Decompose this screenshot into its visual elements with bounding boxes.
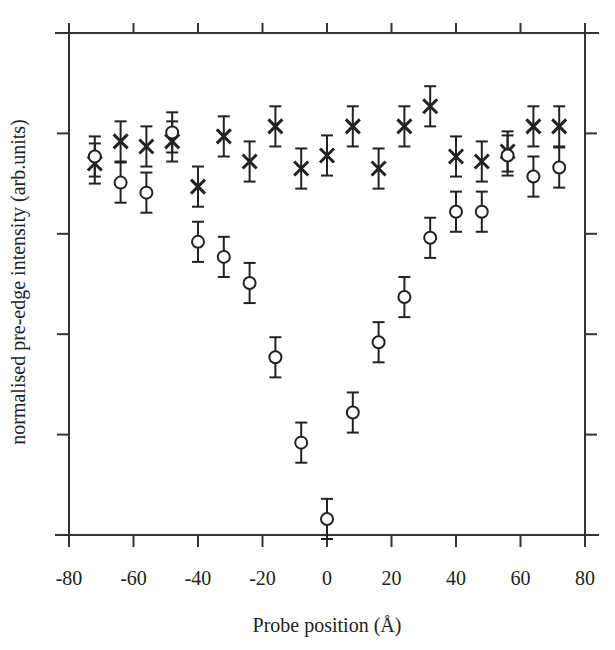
data-point <box>372 148 386 188</box>
x-tick-label: -80 <box>56 567 83 589</box>
data-point <box>114 121 128 161</box>
x-tick-label: 80 <box>575 567 595 589</box>
circle-marker <box>140 187 152 199</box>
data-point <box>373 322 385 362</box>
data-point <box>191 167 205 207</box>
circle-marker <box>476 206 488 218</box>
circle-marker <box>321 513 333 525</box>
data-point <box>294 148 308 188</box>
circle-marker <box>502 149 514 161</box>
data-point <box>476 192 488 232</box>
circle-marker <box>295 437 307 449</box>
data-point <box>321 499 333 539</box>
data-point <box>475 141 489 181</box>
circle-marker <box>553 162 565 174</box>
circle-marker <box>450 206 462 218</box>
data-point <box>139 126 153 166</box>
data-point <box>192 222 204 262</box>
data-point <box>449 136 463 176</box>
data-point <box>295 423 307 463</box>
series-cross <box>88 86 566 206</box>
data-series <box>88 86 566 539</box>
circle-marker <box>244 277 256 289</box>
x-tick-label: -20 <box>249 567 276 589</box>
data-point <box>553 147 565 187</box>
y-axis-ticks <box>57 133 597 434</box>
data-point <box>346 106 360 146</box>
x-tick-label: -60 <box>120 567 147 589</box>
x-tick-label: -40 <box>185 567 212 589</box>
circle-marker <box>373 336 385 348</box>
x-axis-title: Probe position (Å) <box>253 614 402 637</box>
data-point <box>398 277 410 317</box>
circle-marker <box>218 251 230 263</box>
x-tick-label: 40 <box>446 567 466 589</box>
data-point <box>268 106 282 146</box>
data-point <box>217 116 231 156</box>
data-point <box>526 106 540 146</box>
data-point <box>347 392 359 432</box>
circle-marker <box>166 126 178 138</box>
data-point <box>502 135 514 175</box>
circle-marker <box>527 171 539 183</box>
circle-marker <box>398 291 410 303</box>
plot-frame <box>55 23 599 547</box>
data-point <box>423 86 437 126</box>
data-point <box>243 141 257 181</box>
chart: -80-60-40-20020406080 Probe position (Å)… <box>0 0 615 650</box>
circle-marker <box>347 407 359 419</box>
x-tick-label: 20 <box>382 567 402 589</box>
data-point <box>115 163 127 203</box>
data-point <box>89 136 101 176</box>
circle-marker <box>115 177 127 189</box>
x-axis-ticks: -80-60-40-20020406080 <box>56 23 595 589</box>
data-point <box>140 173 152 213</box>
data-point <box>424 218 436 258</box>
x-tick-label: 60 <box>511 567 531 589</box>
data-point <box>218 237 230 277</box>
data-point <box>320 135 334 175</box>
data-point <box>552 106 566 146</box>
circle-marker <box>192 236 204 248</box>
data-point <box>397 106 411 146</box>
data-point <box>244 263 256 303</box>
data-point <box>450 192 462 232</box>
x-tick-label: 0 <box>322 567 332 589</box>
circle-marker <box>424 232 436 244</box>
data-point <box>269 337 281 377</box>
circle-marker <box>269 351 281 363</box>
data-point <box>527 156 539 196</box>
y-axis-title: normalised pre-edge intensity (arb.units… <box>7 119 30 444</box>
circle-marker <box>89 150 101 162</box>
